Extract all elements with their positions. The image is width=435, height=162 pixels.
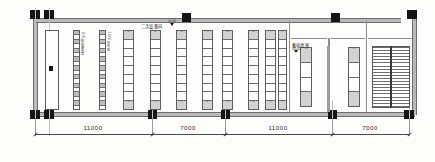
dimension-bay-2: 7000 xyxy=(180,125,196,131)
equipment-column-11[interactable]: 16 xyxy=(300,47,312,107)
equipment-cell xyxy=(279,84,286,93)
equipment-cell xyxy=(177,57,186,66)
equipment-cell xyxy=(151,57,160,66)
equipment-column-4[interactable]: 5049 xyxy=(150,30,161,110)
equipment-cell xyxy=(249,75,258,84)
equipment-column-12[interactable]: 14 xyxy=(348,47,360,107)
equipment-cell xyxy=(177,84,186,93)
equipment-cell: 39 xyxy=(203,101,212,109)
equipment-cell-tag: 40 xyxy=(203,31,211,33)
equipment-cell xyxy=(177,75,186,84)
dimension-bay-3: 11000 xyxy=(268,125,287,131)
wall-partition-battery-left xyxy=(289,21,290,112)
equipment-cell xyxy=(203,84,212,93)
column-grid-e-top xyxy=(407,10,417,19)
equipment-cell: 14 xyxy=(349,48,359,63)
equipment-cell: 57 xyxy=(124,31,133,40)
equipment-cell xyxy=(266,66,275,75)
equipment-cell-tag: 1 xyxy=(279,101,285,103)
equipment-cell: 31 xyxy=(223,101,232,109)
equipment-cell xyxy=(349,63,359,78)
wall-partition-stair-left xyxy=(366,21,367,112)
equipment-cell xyxy=(151,75,160,84)
equipment-cell xyxy=(203,75,212,84)
equipment-cell xyxy=(223,49,232,58)
equipment-cell-tag: 50 xyxy=(151,31,159,33)
equipment-cell xyxy=(177,92,186,101)
equipment-cell xyxy=(301,63,311,78)
equipment-cell xyxy=(249,57,258,66)
equipment-cell xyxy=(223,66,232,75)
equipment-column-9[interactable]: 95 xyxy=(265,30,276,110)
equipment-cell xyxy=(223,84,232,93)
equipment-column-6[interactable]: 4039 xyxy=(202,30,213,110)
equipment-cell xyxy=(249,66,258,75)
equipment-cell-tag: 35 xyxy=(223,31,231,33)
equipment-cell-tag: 24 xyxy=(249,31,257,33)
equipment-cell xyxy=(124,66,133,75)
equipment-cell xyxy=(151,40,160,49)
equipment-cell xyxy=(266,57,275,66)
equipment-cell: 20 xyxy=(249,101,258,109)
equipment-cell xyxy=(151,66,160,75)
equipment-cell xyxy=(124,75,133,84)
equipment-cell xyxy=(301,92,311,106)
equipment-column-2[interactable] xyxy=(99,30,106,110)
equipment-cell: 5 xyxy=(266,101,275,109)
equipment-cell-tag: 39 xyxy=(203,101,211,103)
dimension-line xyxy=(35,134,409,135)
equipment-cell xyxy=(124,40,133,49)
equipment-cell xyxy=(203,92,212,101)
equipment-cell xyxy=(279,92,286,101)
equipment-cell xyxy=(223,92,232,101)
equipment-cell xyxy=(266,92,275,101)
equipment-cell: 3 xyxy=(279,31,286,40)
equipment-cell xyxy=(74,106,79,109)
equipment-cell xyxy=(177,66,186,75)
equipment-cell: 24 xyxy=(249,31,258,40)
equipment-cell xyxy=(124,57,133,66)
equipment-cell xyxy=(203,57,212,66)
wall-door-header-stair xyxy=(331,38,365,39)
note-gis-room: GIS 配电装置室 xyxy=(81,32,85,56)
equipment-cell xyxy=(223,40,232,49)
equipment-cell: 9 xyxy=(266,31,275,40)
equipment-cell xyxy=(124,92,133,101)
wall-top-main xyxy=(33,18,401,23)
equipment-cell xyxy=(223,57,232,66)
equipment-cell xyxy=(177,49,186,58)
equipment-cell-tag: 3 xyxy=(279,31,285,33)
stair-handrail xyxy=(390,46,392,108)
level-mark-1: ±0.00 xyxy=(168,19,176,23)
equipment-column-7[interactable]: 3531 xyxy=(222,30,233,110)
equipment-column-1[interactable] xyxy=(73,30,80,110)
equipment-cell: 40 xyxy=(203,31,212,40)
equipment-cell xyxy=(100,106,105,109)
level-triangle-1 xyxy=(170,23,174,26)
equipment-cell xyxy=(203,40,212,49)
equipment-cell xyxy=(151,92,160,101)
battery-room-center-divider xyxy=(327,46,330,112)
note-switchgear: 10kV 开关柜 xyxy=(107,32,111,51)
level-mark-2: ±0.00 xyxy=(292,47,300,51)
equipment-column-3[interactable]: 5761 xyxy=(123,30,134,110)
wall-right-outer xyxy=(412,18,417,115)
equipment-cell: 1 xyxy=(279,101,286,109)
equipment-cell xyxy=(249,92,258,101)
column-grid-d-top xyxy=(331,13,340,22)
equipment-column-8[interactable]: 2420 xyxy=(248,30,259,110)
equipment-cell-tag: 5 xyxy=(266,101,274,103)
equipment-cell xyxy=(279,57,286,66)
equipment-cell-tag: 14 xyxy=(350,48,359,50)
dimension-bay-1: 11000 xyxy=(83,125,102,131)
equipment-cell xyxy=(349,92,359,106)
equipment-cell xyxy=(124,49,133,58)
equipment-cell: 44 xyxy=(177,101,186,109)
equipment-column-10[interactable]: 31 xyxy=(278,30,287,110)
equipment-cell xyxy=(279,75,286,84)
equipment-column-5[interactable]: 4844 xyxy=(176,30,187,110)
grid-line-a xyxy=(35,8,36,136)
equipment-cell xyxy=(349,78,359,93)
equipment-cell-tag: 57 xyxy=(124,31,132,33)
equipment-cell-tag: 61 xyxy=(124,101,132,103)
